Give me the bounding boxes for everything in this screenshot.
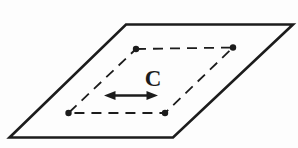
loop-label-c: C <box>145 66 162 91</box>
diagram-svg: C <box>0 0 298 148</box>
loop-corner-dot-bottom-left <box>65 110 71 116</box>
figure-current-loop-on-plane: C <box>0 0 298 148</box>
loop-corner-dot-top-left <box>133 46 139 52</box>
loop-corner-dot-top-right <box>230 44 236 50</box>
loop-corner-dot-bottom-right <box>162 110 168 116</box>
